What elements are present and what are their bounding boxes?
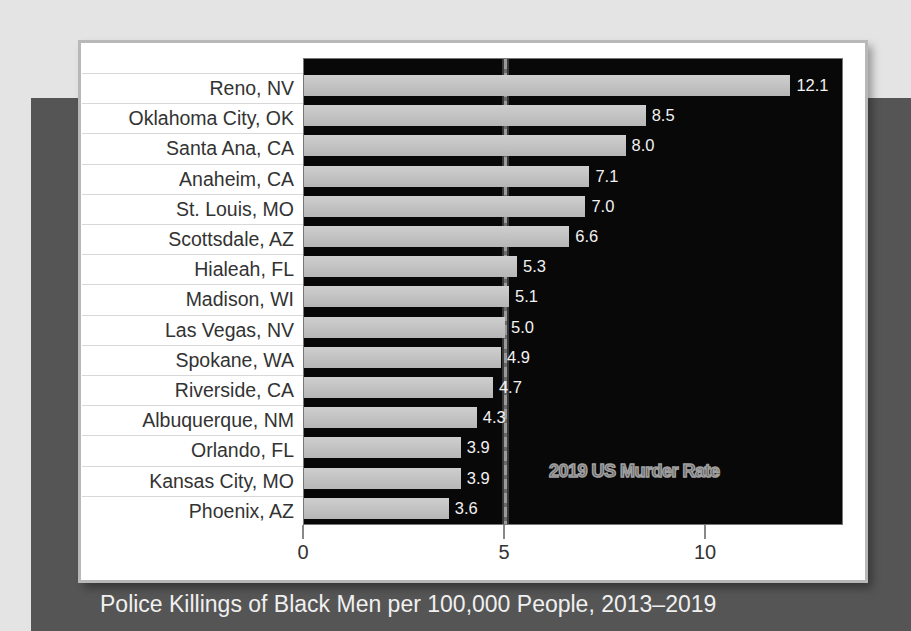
category-label: Riverside, CA: [82, 375, 304, 405]
x-tick-label: 10: [685, 541, 725, 564]
value-label: 7.0: [591, 196, 614, 217]
bar: [304, 377, 493, 398]
category-label: Orlando, FL: [82, 435, 304, 465]
chart-caption: Police Killings of Black Men per 100,000…: [100, 591, 716, 618]
value-label: 3.9: [467, 468, 490, 489]
bar: [304, 286, 509, 307]
bar: [304, 317, 505, 338]
plot-area: 2019 US Murder Rate 12.18.58.07.17.06.65…: [303, 58, 843, 525]
category-label: Spokane, WA: [82, 345, 304, 375]
value-label: 8.0: [632, 135, 655, 156]
category-label: Anaheim, CA: [82, 164, 304, 194]
value-label: 5.1: [515, 286, 538, 307]
value-label: 7.1: [595, 166, 618, 187]
bar: [304, 196, 585, 217]
label-header-row: [82, 44, 304, 74]
category-label: Madison, WI: [82, 284, 304, 314]
value-label: 5.0: [511, 317, 534, 338]
bar: [304, 498, 449, 519]
category-label: Santa Ana, CA: [82, 133, 304, 163]
value-label: 4.9: [507, 347, 530, 368]
category-label: Scottsdale, AZ: [82, 224, 304, 254]
bar: [304, 256, 517, 277]
value-label: 4.7: [499, 377, 522, 398]
value-label: 12.1: [796, 75, 828, 96]
bar: [304, 75, 790, 96]
x-tick: [503, 525, 505, 539]
category-label: St. Louis, MO: [82, 194, 304, 224]
bar: [304, 347, 501, 368]
bar: [304, 468, 461, 489]
bar: [304, 105, 646, 126]
category-label: Albuquerque, NM: [82, 405, 304, 435]
value-label: 8.5: [652, 105, 675, 126]
bar: [304, 407, 477, 428]
value-label: 3.6: [455, 498, 478, 519]
value-label: 6.6: [575, 226, 598, 247]
value-label: 4.3: [483, 407, 506, 428]
value-label: 3.9: [467, 437, 490, 458]
bar: [304, 135, 626, 156]
category-label: Kansas City, MO: [82, 466, 304, 496]
bar: [304, 437, 461, 458]
category-label: Phoenix, AZ: [82, 496, 304, 526]
category-label: Las Vegas, NV: [82, 315, 304, 345]
value-label: 5.3: [523, 256, 546, 277]
bar: [304, 166, 589, 187]
category-label: Oklahoma City, OK: [82, 103, 304, 133]
reference-line-label: 2019 US Murder Rate: [549, 461, 720, 482]
bar: [304, 226, 569, 247]
category-label: Hialeah, FL: [82, 254, 304, 284]
x-tick: [704, 525, 706, 539]
x-tick: [302, 525, 304, 539]
x-tick-label: 5: [484, 541, 524, 564]
x-tick-label: 0: [283, 541, 323, 564]
category-label: Reno, NV: [82, 73, 304, 103]
